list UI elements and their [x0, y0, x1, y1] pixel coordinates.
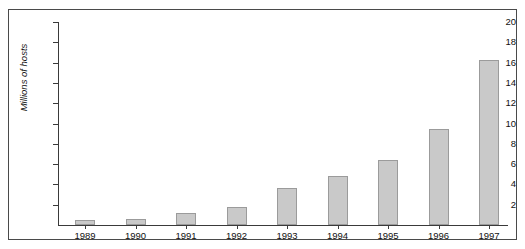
x-axis-tick-mark	[388, 225, 389, 229]
x-axis-tick-mark	[287, 225, 288, 229]
y-axis-tick-mark	[53, 103, 59, 104]
x-axis-tick-mark	[338, 225, 339, 229]
x-axis-line	[58, 225, 508, 226]
x-axis-tick-mark	[85, 225, 86, 229]
y-axis-title: Millions of hosts	[18, 28, 29, 128]
y-axis-tick-mark	[53, 22, 59, 23]
x-axis-tick-label: 1997	[459, 230, 519, 241]
y-axis-tick-mark	[53, 184, 59, 185]
figure-frame: Millions of hosts 2468101214161820 19891…	[8, 9, 517, 240]
bar-1997	[479, 60, 499, 225]
y-axis-tick-mark	[53, 205, 59, 206]
x-axis-tick-mark	[186, 225, 187, 229]
y-axis-tick-label: 18	[476, 37, 516, 46]
bar-1994	[328, 176, 348, 225]
bar-1995	[378, 160, 398, 225]
bar-1996	[429, 129, 449, 225]
figure-caption-strip	[0, 0, 525, 9]
bar-1993	[277, 188, 297, 225]
x-axis-tick-mark	[237, 225, 238, 229]
x-axis-tick-mark	[439, 225, 440, 229]
y-axis-tick-mark	[53, 83, 59, 84]
y-axis-tick-label: 20	[476, 17, 516, 26]
x-axis-tick-mark	[489, 225, 490, 229]
x-axis-tick-mark	[136, 225, 137, 229]
bar-1992	[227, 207, 247, 225]
bar-1989	[75, 220, 95, 225]
y-axis-tick-mark	[53, 63, 59, 64]
chart-plot-area: Millions of hosts 2468101214161820 19891…	[9, 10, 516, 239]
y-axis-tick-mark	[53, 42, 59, 43]
y-axis-tick-mark	[53, 144, 59, 145]
bar-1990	[126, 219, 146, 225]
y-axis-tick-mark	[53, 164, 59, 165]
bar-1991	[176, 213, 196, 225]
y-axis-tick-mark	[53, 124, 59, 125]
